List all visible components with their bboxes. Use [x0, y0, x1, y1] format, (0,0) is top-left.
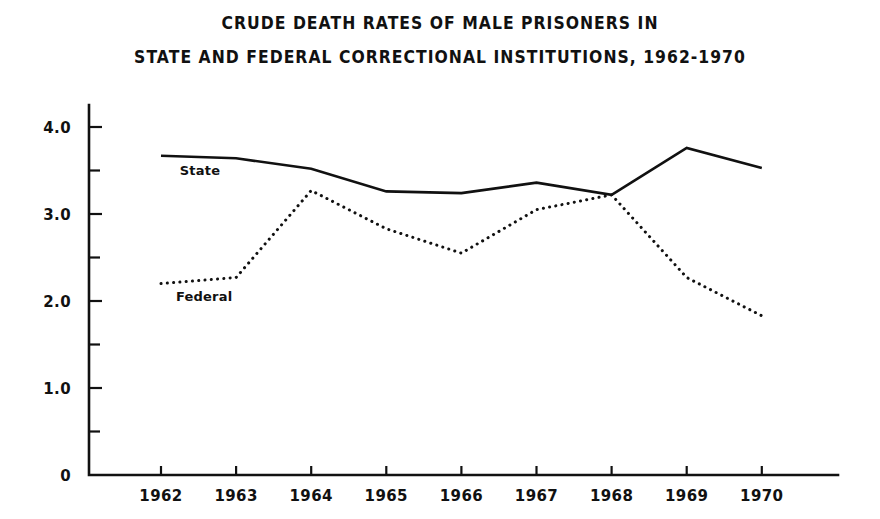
y-axis-tick-label: 4.0 — [43, 119, 71, 137]
y-axis-tick-label: 1.0 — [43, 380, 71, 398]
line-chart: 01.02.03.04.0196219631964196519661967196… — [0, 0, 880, 519]
chart-tick-labels: 01.02.03.04.0196219631964196519661967196… — [43, 119, 783, 505]
chart-series — [161, 148, 762, 316]
series-line-federal — [161, 191, 762, 316]
chart-page: CRUDE DEATH RATES OF MALE PRISONERS IN S… — [0, 0, 880, 519]
x-axis-tick-label: 1966 — [440, 487, 483, 505]
x-axis-tick-label: 1969 — [665, 487, 708, 505]
series-label-state: State — [180, 163, 220, 178]
x-axis-tick-label: 1967 — [515, 487, 558, 505]
x-axis-tick-label: 1962 — [139, 487, 182, 505]
x-axis-tick-label: 1970 — [740, 487, 783, 505]
y-axis-tick-label: 0 — [60, 467, 71, 485]
x-axis-tick-label: 1968 — [590, 487, 633, 505]
chart-annotations: StateFederal — [176, 163, 232, 304]
series-line-state — [161, 148, 762, 195]
y-axis-tick-label: 2.0 — [43, 293, 71, 311]
series-label-federal: Federal — [176, 289, 232, 304]
y-axis-tick-label: 3.0 — [43, 206, 71, 224]
x-axis-tick-label: 1964 — [290, 487, 333, 505]
x-axis-tick-label: 1963 — [214, 487, 257, 505]
x-axis-tick-label: 1965 — [365, 487, 408, 505]
